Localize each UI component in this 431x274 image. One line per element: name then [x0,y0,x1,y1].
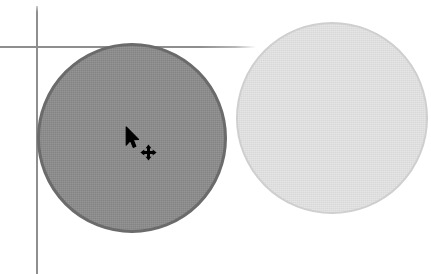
canvas-root[interactable] [0,0,431,274]
shape-layer [0,0,431,274]
light-circle-shape[interactable] [236,22,428,214]
dark-circle-shape[interactable] [37,43,227,233]
